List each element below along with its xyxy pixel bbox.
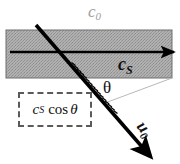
- projection-box-content: cScosθ: [20, 94, 90, 125]
- label-outer-medium: c0: [88, 3, 101, 22]
- label-outer-medium-symbol: c: [88, 2, 96, 21]
- diagram-canvas: [0, 0, 180, 164]
- projection-operator: cos: [48, 101, 68, 118]
- physics-diagram: c0 cS θ cScosθ u0: [0, 0, 180, 164]
- slab-band: [6, 30, 172, 78]
- projection-argument: θ: [70, 101, 77, 118]
- label-angle-theta: θ: [103, 79, 111, 96]
- projection-subscript: S: [39, 104, 44, 115]
- label-outer-medium-subscript: 0: [96, 10, 102, 22]
- label-slab-medium-subscript: S: [126, 63, 133, 77]
- projection-box: cScosθ: [18, 92, 92, 127]
- angle-reference-ray: [105, 78, 172, 103]
- label-slab-medium-symbol: c: [118, 54, 126, 74]
- label-slab-medium: cS: [118, 55, 133, 76]
- projection-symbol: c: [32, 101, 39, 118]
